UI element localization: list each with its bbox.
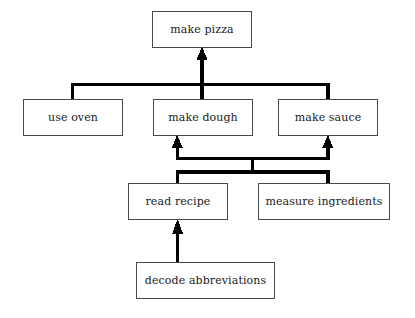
node-read-recipe[interactable]: read recipe (128, 183, 228, 220)
node-measure-ingredients[interactable]: measure ingredients (258, 183, 390, 220)
drop-use-oven (71, 83, 73, 99)
drop-make-dough (201, 83, 203, 99)
riser-into-make-sauce (327, 146, 329, 159)
drop-make-sauce (327, 83, 329, 99)
bus-line-level1 (71, 83, 329, 85)
node-label: decode abbreviations (145, 275, 266, 286)
node-make-pizza[interactable]: make pizza (152, 11, 252, 48)
stem-to-make-pizza (201, 57, 203, 84)
node-label: measure ingredients (265, 196, 382, 207)
node-make-dough[interactable]: make dough (153, 99, 253, 136)
node-label: make dough (168, 112, 238, 123)
arrowhead-into-read-recipe (173, 220, 182, 233)
node-make-sauce[interactable]: make sauce (278, 99, 378, 136)
diagram-canvas: make pizza use oven make dough make sauc… (0, 0, 415, 318)
arrowhead-to-make-pizza (197, 48, 206, 59)
node-decode-abbreviations[interactable]: decode abbreviations (136, 262, 275, 299)
bus-line-level3 (176, 171, 329, 173)
drop-measure-ingredients (327, 171, 329, 184)
node-label: use oven (48, 112, 98, 123)
drop-read-recipe (176, 171, 178, 184)
arrowhead-into-make-dough (173, 136, 182, 147)
node-use-oven[interactable]: use oven (23, 99, 123, 136)
riser-into-make-dough (176, 146, 178, 159)
node-label: make pizza (170, 24, 233, 35)
arrowhead-into-make-sauce (323, 136, 332, 147)
node-label: read recipe (146, 196, 211, 207)
stem-to-read-recipe (177, 232, 179, 262)
stem-level2-to-level3 (251, 157, 253, 172)
node-label: make sauce (295, 112, 362, 123)
